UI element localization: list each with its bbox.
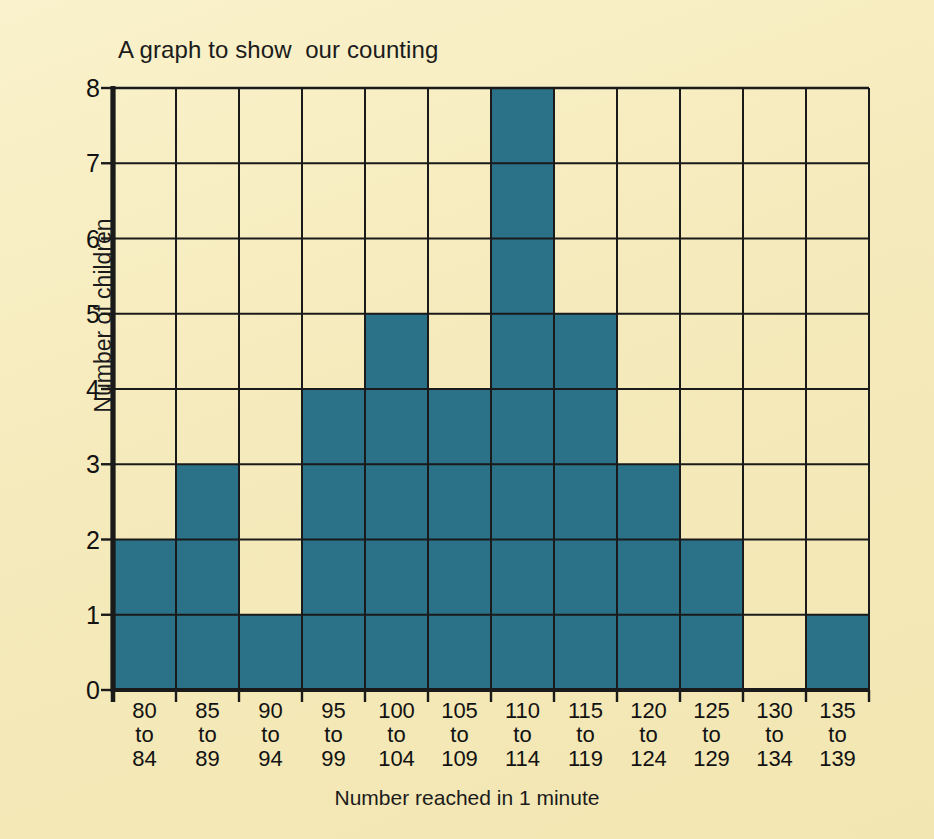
x-tick-label-line: 99	[321, 747, 345, 771]
x-tick-label-line: to	[378, 723, 415, 747]
x-tick-label-line: 84	[132, 747, 156, 771]
x-tick-label-line: 95	[321, 699, 345, 723]
x-tick-label: 105to109	[441, 699, 478, 772]
x-tick-label: 120to124	[630, 699, 667, 772]
y-tick-label: 0	[86, 678, 100, 703]
x-tick-label: 85to89	[195, 699, 219, 772]
bar	[806, 615, 869, 690]
bar	[617, 464, 680, 690]
chart-title: A graph to show our counting	[118, 36, 438, 64]
x-tick-label: 90to94	[258, 699, 282, 772]
bar	[365, 314, 428, 690]
x-tick-label-line: 90	[258, 699, 282, 723]
y-tick-label: 5	[86, 301, 100, 326]
x-tick-label-line: 139	[819, 747, 856, 771]
x-tick-label-line: 109	[441, 747, 478, 771]
y-tick-label: 7	[86, 151, 100, 176]
x-tick-label-line: 130	[756, 699, 793, 723]
x-tick-label-line: 129	[693, 747, 730, 771]
x-tick-label-line: 135	[819, 699, 856, 723]
bar	[554, 314, 617, 690]
x-tick-label-line: 89	[195, 747, 219, 771]
y-tick-label: 2	[86, 527, 100, 552]
x-tick-label-line: to	[321, 723, 345, 747]
x-tick-label-line: to	[132, 723, 156, 747]
x-tick-label: 130to134	[756, 699, 793, 772]
y-tick-label: 8	[86, 76, 100, 101]
x-tick-label-line: 120	[630, 699, 667, 723]
y-tick-label: 3	[86, 452, 100, 477]
x-tick-label-line: 115	[568, 699, 603, 723]
x-tick-label: 135to139	[819, 699, 856, 772]
x-tick-label-line: 100	[378, 699, 415, 723]
x-tick-label: 80to84	[132, 699, 156, 772]
x-tick-label-line: 125	[693, 699, 730, 723]
x-tick-label: 115to119	[568, 699, 603, 772]
x-tick-label-line: 119	[568, 747, 603, 771]
x-axis-title: Number reached in 1 minute	[0, 786, 934, 810]
x-tick-label: 125to129	[693, 699, 730, 772]
x-tick-label-line: to	[756, 723, 793, 747]
x-tick-label: 100to104	[378, 699, 415, 772]
chart-canvas	[113, 88, 869, 690]
x-tick-label-line: 94	[258, 747, 282, 771]
x-tick-label-line: to	[258, 723, 282, 747]
chart-page: A graph to show our counting Number of c…	[0, 0, 934, 839]
x-tick-label-line: 110	[505, 699, 540, 723]
x-tick-label-line: 80	[132, 699, 156, 723]
x-tick-label-line: to	[630, 723, 667, 747]
x-tick-label-line: 134	[756, 747, 793, 771]
plot-area: 012345678 80to8485to8990to9495to99100to1…	[113, 88, 869, 690]
x-tick-label-line: 124	[630, 747, 667, 771]
x-tick-label-line: to	[819, 723, 856, 747]
x-tick-label-line: 104	[378, 747, 415, 771]
y-tick-label: 4	[86, 377, 100, 402]
bar	[239, 615, 302, 690]
x-tick-label-line: 105	[441, 699, 478, 723]
x-tick-label: 110to114	[505, 699, 540, 772]
x-tick-label-line: 85	[195, 699, 219, 723]
x-tick-label-line: to	[505, 723, 540, 747]
bar	[176, 464, 239, 690]
y-tick-label: 6	[86, 226, 100, 251]
x-tick-label-line: to	[693, 723, 730, 747]
y-tick-label: 1	[86, 602, 100, 627]
x-tick-label-line: 114	[505, 747, 540, 771]
x-tick-label-line: to	[195, 723, 219, 747]
x-tick-label: 95to99	[321, 699, 345, 772]
x-tick-label-line: to	[568, 723, 603, 747]
x-tick-label-line: to	[441, 723, 478, 747]
